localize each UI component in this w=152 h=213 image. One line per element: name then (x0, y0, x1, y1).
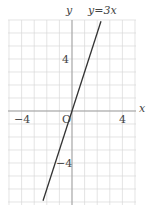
origin-label: O (62, 113, 71, 126)
y-tick-neg4: −4 (56, 157, 72, 170)
y-axis-label: y (65, 4, 73, 17)
graph: x y y=3x O −4 4 4 −4 (0, 0, 152, 213)
y-tick-4: 4 (62, 53, 69, 66)
x-axis-label: x (139, 102, 146, 115)
equation-label: y=3x (87, 4, 117, 17)
x-tick-neg4: −4 (14, 113, 30, 126)
x-tick-4: 4 (119, 113, 126, 126)
